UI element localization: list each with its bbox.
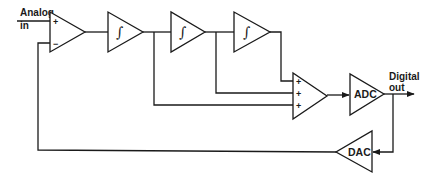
wire-output-to-dac <box>373 94 393 152</box>
dac-block: DAC <box>336 131 372 172</box>
integral-icon: ∫ <box>243 24 250 40</box>
sigma-delta-block-diagram: Analog in + − ∫ ∫ ∫ + + + ADC <box>0 0 437 181</box>
difference-amplifier: + − <box>50 12 85 52</box>
integrator-3: ∫ <box>234 12 270 52</box>
dac-label: DAC <box>348 146 371 158</box>
adc-label: ADC <box>354 88 377 100</box>
digital-output: Digital out <box>384 71 420 94</box>
analog-input: Analog in <box>17 7 54 31</box>
summing-amplifier: + + + <box>293 73 327 119</box>
integral-icon: ∫ <box>116 24 123 40</box>
digital-out-label-line1: Digital <box>389 71 420 82</box>
wire-dac-to-minus-input <box>38 43 336 152</box>
integrator-3-triangle <box>234 12 270 52</box>
digital-out-label-line2: out <box>389 82 405 93</box>
integral-icon: ∫ <box>179 24 186 40</box>
summer-plus-sign-3: + <box>296 101 301 111</box>
plus-input-sign: + <box>53 17 58 27</box>
integrator-1: ∫ <box>108 12 143 52</box>
adc-block: ADC <box>350 74 384 115</box>
summer-plus-sign-2: + <box>296 89 301 99</box>
integrator-2-triangle <box>171 12 205 52</box>
integrator-1-triangle <box>108 12 143 52</box>
wire-int3-to-summer <box>270 32 293 81</box>
integrator-2: ∫ <box>171 12 205 52</box>
analog-in-label-line1: Analog <box>20 7 54 18</box>
summer-plus-sign-1: + <box>296 77 301 87</box>
minus-input-sign: − <box>53 39 58 49</box>
